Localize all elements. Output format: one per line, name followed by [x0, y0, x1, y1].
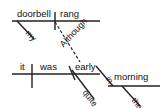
- diagram-word-rang: rang: [60, 9, 79, 19]
- sentence-diagram: doorbellrangmyAlthoughitwasearlyquiteinm…: [0, 0, 161, 108]
- diagram-word-morning: morning: [114, 72, 148, 82]
- diagram-word-early: early: [75, 62, 96, 72]
- diagram-word-was: was: [40, 62, 57, 72]
- diagram-word-doorbell: doorbell: [17, 9, 51, 19]
- diagram-word-it: it: [20, 62, 25, 72]
